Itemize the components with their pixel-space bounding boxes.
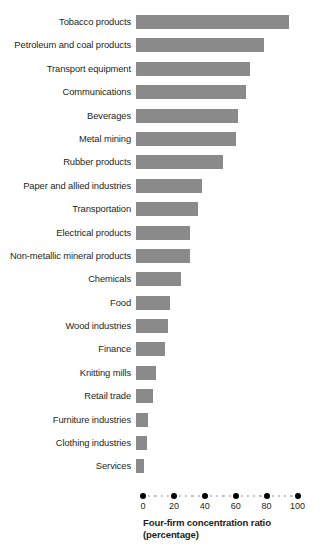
bar-track [136, 38, 330, 52]
category-label: Wood industries [0, 319, 136, 333]
bar [136, 319, 168, 333]
bar [136, 342, 165, 356]
bar-rows: Tobacco productsPetroleum and coal produ… [0, 15, 330, 483]
axis-minor-dot [167, 495, 169, 497]
axis-tick-dot [233, 493, 239, 499]
bar-track [136, 342, 330, 356]
axis-tick-dot [295, 493, 301, 499]
bar-track [136, 155, 330, 169]
bar-row: Rubber products [0, 155, 330, 178]
axis-tick-label: 100 [290, 501, 305, 512]
bar-track [136, 202, 330, 216]
bar-row: Knitting mills [0, 366, 330, 389]
axis-tick-label: 0 [140, 501, 145, 512]
category-label: Beverages [0, 109, 136, 123]
bar-row: Paper and allied industries [0, 179, 330, 202]
bar-row: Wood industries [0, 319, 330, 342]
category-label: Tobacco products [0, 15, 136, 29]
bar-row: Chemicals [0, 272, 330, 295]
bar [136, 436, 147, 450]
bar-track [136, 249, 330, 263]
bar-track [136, 62, 330, 76]
category-label: Knitting mills [0, 366, 136, 380]
bar [136, 179, 202, 193]
x-axis-title-line1: Four-firm concentration ratio [143, 517, 328, 529]
bar [136, 109, 238, 123]
bar [136, 366, 156, 380]
bar-row: Non-metallic mineral products [0, 249, 330, 272]
bar-row: Metal mining [0, 132, 330, 155]
axis-minor-dot [216, 495, 218, 497]
axis-minor-dot [210, 495, 212, 497]
bar [136, 155, 223, 169]
bar-row: Food [0, 296, 330, 319]
axis-minor-dot [222, 495, 224, 497]
axis-tick-dot [171, 493, 177, 499]
axis-minor-dot [272, 495, 274, 497]
axis-minor-dot [247, 495, 249, 497]
bar-track [136, 272, 330, 286]
bar-track [136, 15, 330, 29]
category-label: Finance [0, 342, 136, 356]
axis-minor-dot [198, 495, 200, 497]
axis-minor-dot [154, 495, 156, 497]
bar [136, 62, 250, 76]
bar [136, 226, 190, 240]
category-label: Electrical products [0, 226, 136, 240]
axis-minor-dot [160, 495, 162, 497]
bar-row: Furniture industries [0, 413, 330, 436]
category-label: Furniture industries [0, 413, 136, 427]
bar [136, 132, 236, 146]
axis-minor-dot [179, 495, 181, 497]
axis-minor-dot [228, 495, 230, 497]
axis-tick-dot [202, 493, 208, 499]
bar-row: Tobacco products [0, 15, 330, 38]
bar [136, 202, 198, 216]
category-label: Metal mining [0, 132, 136, 146]
category-label: Clothing industries [0, 436, 136, 450]
bar-row: Transport equipment [0, 62, 330, 85]
bar [136, 459, 144, 473]
axis-tick-label: 60 [231, 501, 241, 512]
axis-tick-label: 80 [262, 501, 272, 512]
category-label: Rubber products [0, 155, 136, 169]
bar-row: Finance [0, 342, 330, 365]
bar [136, 38, 264, 52]
bar-row: Petroleum and coal products [0, 38, 330, 61]
axis-minor-dot [284, 495, 286, 497]
axis-minor-dot [253, 495, 255, 497]
bar-track [136, 179, 330, 193]
axis-minor-dot [290, 495, 292, 497]
x-axis: 020406080100 [143, 493, 303, 503]
bar [136, 413, 148, 427]
axis-minor-dot [185, 495, 187, 497]
axis-tick-label: 20 [169, 501, 179, 512]
x-axis-title: Four-firm concentration ratio (percentag… [143, 517, 328, 540]
bar-row: Communications [0, 85, 330, 108]
x-axis-dot-scale [143, 493, 303, 501]
category-label: Paper and allied industries [0, 179, 136, 193]
bar [136, 296, 170, 310]
horizontal-bar-chart: Tobacco productsPetroleum and coal produ… [0, 0, 330, 559]
axis-minor-dot [241, 495, 243, 497]
bar-track [136, 109, 330, 123]
bar-row: Retail trade [0, 389, 330, 412]
bar-track [136, 226, 330, 240]
bar-track [136, 85, 330, 99]
category-label: Non-metallic mineral products [0, 249, 136, 263]
bar [136, 272, 181, 286]
bar-row: Beverages [0, 109, 330, 132]
bar-track [136, 413, 330, 427]
bar-track [136, 366, 330, 380]
bar-track [136, 389, 330, 403]
bar-row: Electrical products [0, 226, 330, 249]
category-label: Petroleum and coal products [0, 38, 136, 52]
axis-tick-label: 40 [200, 501, 210, 512]
bar [136, 249, 190, 263]
axis-minor-dot [191, 495, 193, 497]
bar-track [136, 296, 330, 310]
bar-track [136, 436, 330, 450]
axis-tick-dot [264, 493, 270, 499]
bar-track [136, 459, 330, 473]
category-label: Services [0, 459, 136, 473]
